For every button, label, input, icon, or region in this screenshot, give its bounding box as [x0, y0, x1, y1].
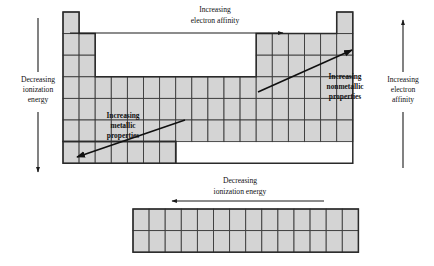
- left-axis-label-line1: Decreasing: [21, 75, 55, 84]
- table-cell: [133, 231, 149, 253]
- table-cell: [272, 55, 288, 77]
- left-axis-label-line2: ionization: [23, 85, 54, 94]
- table-cell: [63, 77, 79, 99]
- table-cell: [79, 77, 95, 99]
- bottom-axis-label-line1: Decreasing: [223, 176, 257, 185]
- table-cell: [230, 231, 246, 253]
- right-axis-label-line2: electron: [391, 85, 416, 94]
- table-cell: [133, 209, 149, 231]
- table-cell: [197, 209, 213, 231]
- table-cell: [63, 120, 79, 142]
- table-cell: [230, 209, 246, 231]
- table-cell: [321, 34, 337, 56]
- table-cell: [326, 231, 342, 253]
- nonmetallic-label-line2: nonmetallic: [327, 82, 365, 91]
- period-row-7: [63, 142, 176, 164]
- table-cell: [63, 142, 79, 164]
- top-axis-label-line1: Increasing: [199, 5, 231, 14]
- table-cell: [310, 231, 326, 253]
- table-cell: [192, 98, 208, 120]
- table-cell: [288, 34, 304, 56]
- table-cell: [165, 209, 181, 231]
- top-axis-label-line2: electron affinity: [191, 16, 240, 25]
- table-cell: [246, 209, 262, 231]
- table-cell: [256, 34, 272, 56]
- left-axis-label-line3: energy: [28, 95, 49, 104]
- table-cell: [144, 98, 160, 120]
- table-cell: [305, 98, 321, 120]
- table-cell: [342, 231, 358, 253]
- table-cell: [288, 55, 304, 77]
- table-cell: [192, 77, 208, 99]
- table-cell: [305, 34, 321, 56]
- table-cell: [305, 55, 321, 77]
- table-cell: [127, 142, 143, 164]
- table-cell: [224, 98, 240, 120]
- period-row-4: [63, 77, 353, 99]
- table-cell: [224, 77, 240, 99]
- right-axis-label-line1: Increasing: [387, 75, 419, 84]
- table-cell: [337, 12, 353, 34]
- f-block-grid: [133, 209, 358, 252]
- table-cell: [262, 209, 278, 231]
- table-cell: [240, 120, 256, 142]
- right-axis-label-line3: affinity: [392, 95, 414, 104]
- table-cell: [144, 142, 160, 164]
- table-cell: [272, 120, 288, 142]
- table-cell: [176, 77, 192, 99]
- table-cell: [192, 120, 208, 142]
- table-cell: [337, 120, 353, 142]
- table-cell: [208, 77, 224, 99]
- table-cell: [256, 120, 272, 142]
- table-cell: [165, 231, 181, 253]
- table-cell: [337, 98, 353, 120]
- table-cell: [63, 55, 79, 77]
- table-cell: [278, 231, 294, 253]
- table-cell: [294, 231, 310, 253]
- table-cell: [63, 34, 79, 56]
- table-cell: [149, 209, 165, 231]
- metallic-label-line1: Increasing: [106, 111, 139, 120]
- table-cell: [256, 98, 272, 120]
- table-cell: [246, 231, 262, 253]
- table-cell: [256, 55, 272, 77]
- table-cell: [224, 120, 240, 142]
- table-cell: [79, 120, 95, 142]
- table-cell: [160, 142, 176, 164]
- table-cell: [288, 120, 304, 142]
- table-cell: [278, 209, 294, 231]
- table-cell: [63, 98, 79, 120]
- table-cell: [181, 231, 197, 253]
- table-cell: [95, 77, 111, 99]
- metallic-label-line2: metallic: [110, 121, 136, 130]
- table-cell: [95, 142, 111, 164]
- table-cell: [240, 77, 256, 99]
- table-cell: [208, 98, 224, 120]
- table-cell: [79, 98, 95, 120]
- table-cell: [256, 77, 272, 99]
- table-cell: [214, 231, 230, 253]
- nonmetallic-label-line3: properties: [329, 92, 361, 101]
- table-cell: [208, 120, 224, 142]
- table-cell: [262, 231, 278, 253]
- table-cell: [63, 12, 79, 34]
- table-cell: [294, 209, 310, 231]
- table-cell: [337, 34, 353, 56]
- periodic-table-trends-figure: Decreasing ionization energy Increasing …: [0, 0, 434, 266]
- table-cell: [272, 34, 288, 56]
- metallic-label-line3: properties: [107, 131, 139, 140]
- table-cell: [321, 98, 337, 120]
- table-cell: [288, 98, 304, 120]
- table-cell: [305, 120, 321, 142]
- table-cell: [305, 77, 321, 99]
- table-cell: [144, 77, 160, 99]
- table-cell: [160, 77, 176, 99]
- table-cell: [342, 209, 358, 231]
- table-cell: [214, 209, 230, 231]
- table-cell: [272, 98, 288, 120]
- table-cell: [149, 231, 165, 253]
- table-cell: [181, 209, 197, 231]
- table-cell: [240, 98, 256, 120]
- bottom-axis-label-line2: ionization energy: [214, 187, 267, 196]
- table-cell: [197, 231, 213, 253]
